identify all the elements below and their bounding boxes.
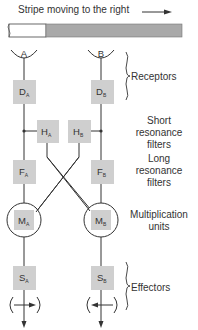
receptors-label: Receptors [131,71,193,83]
receptor-a: A [11,48,37,59]
box-sb: SB [91,266,114,290]
receptor-b: B [88,48,114,59]
box-da: DA [13,80,36,104]
receptor-b-label: B [98,48,104,59]
short-label-line-1: Short [120,115,198,127]
effector-b-left-arrow-icon [87,297,117,313]
right-arrow-icon [142,10,172,15]
short-label-line-2: resonance [120,127,198,139]
long-resonance-filters-label: Long resonance filters [120,153,198,189]
effectors-brace [126,262,130,310]
multiplication-units-label: Multiplication units [120,209,198,233]
mult-label-line-2: units [120,221,198,233]
mult-unit-b: MB [84,203,118,237]
box-fa: FA [13,160,36,184]
box-sa: SA [13,266,36,290]
junction-dot-a [22,129,25,132]
box-hb: HB [68,120,91,143]
box-db: DB [91,80,114,104]
short-label-line-3: filters [120,139,198,151]
receptor-a-label: A [21,48,28,59]
down-arrow-b-icon [99,321,104,328]
long-label-line-1: Long [120,153,198,165]
stripe-bar [8,24,182,37]
mult-label-line-1: Multiplication [120,209,198,221]
box-fb: FB [91,160,114,184]
down-arrow-a-icon [22,321,27,328]
mult-unit-a: MA [7,203,41,237]
box-ha: HA [37,120,59,143]
effectors-label: Effectors [131,282,193,294]
short-resonance-filters-label: Short resonance filters [120,115,198,151]
receptors-brace [126,52,130,100]
effector-a-right-arrow-icon [10,297,40,313]
junction-dot-b [99,129,102,132]
long-label-line-2: resonance [120,165,198,177]
long-label-line-3: filters [120,177,198,189]
